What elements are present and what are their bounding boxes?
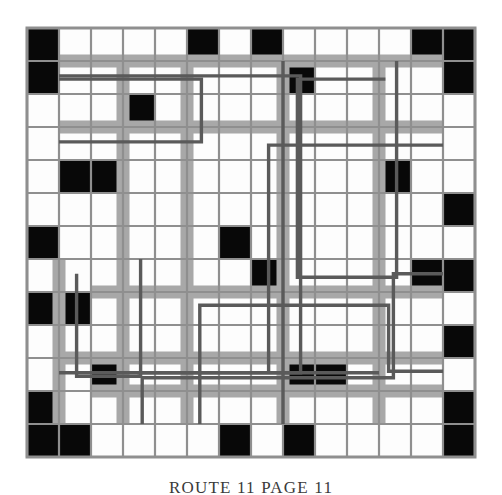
open-cell[interactable] <box>91 424 123 457</box>
open-cell[interactable] <box>443 358 475 391</box>
open-cell[interactable] <box>443 160 475 193</box>
open-cell[interactable] <box>315 424 347 457</box>
blocked-cell[interactable] <box>59 424 91 457</box>
blocked-cell[interactable] <box>27 424 59 457</box>
blocked-cell[interactable] <box>27 226 59 259</box>
figure-caption: ROUTE 11 PAGE 11 <box>0 478 502 495</box>
blocked-cell[interactable] <box>219 424 251 457</box>
blocked-cell[interactable] <box>443 325 475 358</box>
routing-figure: ROUTE 11 PAGE 11 <box>0 0 502 495</box>
open-cell[interactable] <box>27 94 59 127</box>
open-cell[interactable] <box>443 226 475 259</box>
blocked-cell[interactable] <box>283 424 315 457</box>
open-cell[interactable] <box>347 424 379 457</box>
open-cell[interactable] <box>219 193 251 226</box>
blocked-cell[interactable] <box>219 226 251 259</box>
open-cell[interactable] <box>155 424 187 457</box>
blocked-cell[interactable] <box>443 391 475 424</box>
open-cell[interactable] <box>379 424 411 457</box>
blocked-cell[interactable] <box>443 259 475 292</box>
open-cell[interactable] <box>315 193 347 226</box>
blocked-cell[interactable] <box>443 424 475 457</box>
open-cell[interactable] <box>443 127 475 160</box>
open-cell[interactable] <box>411 193 443 226</box>
open-cell[interactable] <box>443 292 475 325</box>
open-cell[interactable] <box>59 226 91 259</box>
blocked-cell[interactable] <box>443 61 475 94</box>
blocked-cell[interactable] <box>27 61 59 94</box>
open-cell[interactable] <box>27 193 59 226</box>
open-cell[interactable] <box>411 160 443 193</box>
open-cell[interactable] <box>251 424 283 457</box>
open-cell[interactable] <box>443 94 475 127</box>
routing-grid[interactable] <box>0 0 502 495</box>
open-cell[interactable] <box>315 160 347 193</box>
blocked-cell[interactable] <box>443 193 475 226</box>
open-cell[interactable] <box>411 424 443 457</box>
blocked-cell[interactable] <box>27 28 59 61</box>
open-cell[interactable] <box>27 160 59 193</box>
open-cell[interactable] <box>315 226 347 259</box>
blocked-cell[interactable] <box>443 28 475 61</box>
open-cell[interactable] <box>219 160 251 193</box>
open-cell[interactable] <box>123 424 155 457</box>
open-cell[interactable] <box>187 424 219 457</box>
open-cell[interactable] <box>27 127 59 160</box>
open-cell[interactable] <box>411 226 443 259</box>
open-cell[interactable] <box>59 193 91 226</box>
blocked-cell[interactable] <box>59 160 91 193</box>
